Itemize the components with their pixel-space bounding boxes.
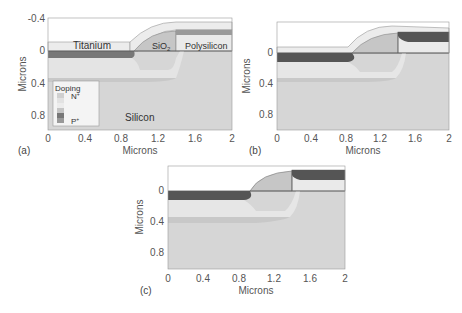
x-tick: 2	[446, 133, 452, 144]
x-tick: 0.4	[78, 133, 92, 144]
x-tick: 0	[45, 133, 51, 144]
panel-a-plot: Doping N+ P+ Titanium SiO2 Polysilicon S…	[0, 0, 240, 160]
label-silicon: Silicon	[125, 112, 154, 123]
x-tick: 2	[342, 273, 348, 284]
x-tick: 0	[274, 133, 280, 144]
doping-legend: Doping N+ P+	[53, 81, 99, 126]
x-tick: 0.8	[232, 273, 246, 284]
x-tick: 0	[165, 273, 171, 284]
panel-a: Doping N+ P+ Titanium SiO2 Polysilicon S…	[0, 0, 240, 160]
panel-c: 0 0.4 0.8 0 0.4 0.8 1.2 1.6 2 Microns Mi…	[110, 155, 360, 313]
y-tick: 0.8	[259, 109, 273, 120]
y-tick: 0.8	[31, 110, 45, 121]
y-tick: 0.4	[31, 78, 45, 89]
x-tick: 0.4	[304, 133, 318, 144]
p-plus-region	[168, 191, 251, 200]
x-tick: 1.6	[408, 133, 422, 144]
panel-c-plot: 0 0.4 0.8 0 0.4 0.8 1.2 1.6 2 Microns Mi…	[110, 155, 360, 313]
y-tick: 0.4	[259, 78, 273, 89]
x-tick: 1.2	[373, 133, 387, 144]
x-tick: 1.6	[188, 133, 202, 144]
x-tick: 1.2	[267, 273, 281, 284]
x-axis-label: Microns	[238, 285, 273, 296]
y-tick: -0.4	[28, 13, 46, 24]
y-axis-label: Microns	[134, 199, 145, 234]
y-tick: 0.8	[150, 247, 164, 258]
p-plus-region	[48, 51, 135, 58]
y-tick: 0	[267, 47, 273, 58]
label-titanium: Titanium	[73, 40, 111, 51]
x-tick: 0.8	[339, 133, 353, 144]
x-tick: 0.4	[196, 273, 210, 284]
y-axis-label: Microns	[17, 56, 28, 91]
y-tick: 0	[158, 185, 164, 196]
y-tick: 0	[39, 45, 45, 56]
panel-b-plot: 0 0.4 0.8 0 0.4 0.8 1.2 1.6 2 Microns Mi…	[230, 0, 462, 160]
panel-tag: (a)	[18, 145, 30, 156]
x-tick: 0.8	[114, 133, 128, 144]
x-tick: 1.2	[151, 133, 165, 144]
label-polysilicon: Polysilicon	[185, 41, 228, 51]
p-plus-region	[277, 53, 354, 62]
x-tick: 1.6	[303, 273, 317, 284]
y-axis-label: Microns	[241, 58, 252, 93]
panel-b: 0 0.4 0.8 0 0.4 0.8 1.2 1.6 2 Microns Mi…	[230, 0, 462, 160]
panel-tag: (c)	[140, 285, 152, 296]
y-tick: 0.4	[150, 216, 164, 227]
